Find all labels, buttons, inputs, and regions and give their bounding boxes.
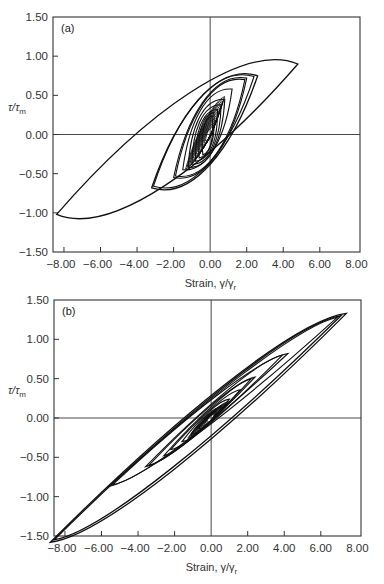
x-tick-label: −4.00 xyxy=(120,258,149,270)
y-tick-label: −1.50 xyxy=(20,530,49,542)
y-tick-label: 0.00 xyxy=(27,412,49,424)
chart-a-canvas: 1.501.000.500.00−0.50−1.00−1.50−8.00−6.0… xyxy=(0,0,384,292)
x-tick-label: −4.00 xyxy=(121,542,150,554)
x-tick-label: −8.00 xyxy=(47,542,76,554)
x-tick-label: 8.00 xyxy=(345,258,367,270)
y-tick-label: −1.50 xyxy=(19,246,48,258)
x-tick-label: 2.00 xyxy=(236,258,258,270)
y-tick-label: 1.00 xyxy=(27,333,49,345)
y-tick-label: −1.00 xyxy=(20,491,49,503)
y-axis-label: τ/τm xyxy=(8,384,26,399)
y-tick-label: 1.00 xyxy=(26,50,48,62)
panel-label: (b) xyxy=(62,305,75,317)
x-axis-label: Strain, γ/γr xyxy=(186,561,238,576)
x-tick-label: 8.00 xyxy=(346,542,368,554)
y-tick-label: −0.50 xyxy=(19,168,48,180)
x-axis-label: Strain, γ/γr xyxy=(185,277,237,292)
hysteresis-loop xyxy=(109,317,337,486)
hysteresis-loop xyxy=(57,60,298,219)
x-tick-label: 4.00 xyxy=(272,258,294,270)
y-tick-label: −1.00 xyxy=(19,207,48,219)
x-tick-label: 4.00 xyxy=(273,542,295,554)
y-tick-label: −0.50 xyxy=(20,451,49,463)
y-tick-label: 1.50 xyxy=(27,294,49,306)
y-axis-label: τ/τm xyxy=(8,101,26,116)
hysteresis-chart-b: 1.501.000.500.00−0.50−1.00−1.50−8.00−6.0… xyxy=(0,292,384,584)
x-tick-label: 6.00 xyxy=(309,258,331,270)
chart-b-canvas: 1.501.000.500.00−0.50−1.00−1.50−8.00−6.0… xyxy=(0,292,384,584)
x-tick-label: 0.00 xyxy=(199,258,221,270)
x-tick-label: −8.00 xyxy=(46,258,75,270)
x-tick-label: −2.00 xyxy=(157,542,186,554)
hysteresis-loops xyxy=(57,60,298,219)
x-tick-label: −6.00 xyxy=(84,542,113,554)
y-tick-label: 0.50 xyxy=(27,373,49,385)
x-tick-label: 0.00 xyxy=(200,542,222,554)
y-tick-label: 0.50 xyxy=(26,89,48,101)
hysteresis-chart-a: 1.501.000.500.00−0.50−1.00−1.50−8.00−6.0… xyxy=(0,0,384,292)
x-tick-label: −2.00 xyxy=(156,258,185,270)
panel-label: (a) xyxy=(61,22,74,34)
x-tick-label: −6.00 xyxy=(83,258,112,270)
x-tick-label: 6.00 xyxy=(310,542,332,554)
y-tick-label: 1.50 xyxy=(26,11,48,23)
x-tick-label: 2.00 xyxy=(237,542,259,554)
hysteresis-loops xyxy=(50,313,346,542)
y-tick-label: 0.00 xyxy=(26,129,48,141)
